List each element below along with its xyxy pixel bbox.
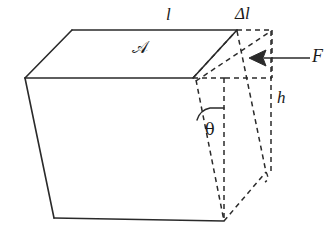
dashed-bottom-right-edge (224, 172, 266, 221)
label-shear-angle-theta: θ (205, 122, 215, 138)
top-face-edge-back-left (25, 30, 72, 78)
label-length-l: l (166, 6, 171, 23)
shear-angle-arc (197, 108, 224, 120)
front-face-edge-bottom (54, 218, 224, 221)
label-force-F: F (312, 47, 323, 65)
label-delta-length: Δl (235, 5, 250, 22)
label-height-h: h (277, 89, 286, 106)
block-diagram-canvas (0, 0, 334, 235)
dashed-sheared-edge-left (196, 80, 224, 221)
force-arrow-head (249, 50, 266, 66)
shear-deformation-figure: l Δl 𝒜 F h θ (0, 0, 334, 235)
label-area-A: 𝒜 (132, 39, 148, 56)
force-arrow (249, 50, 310, 66)
front-face-edge-left (25, 78, 54, 218)
